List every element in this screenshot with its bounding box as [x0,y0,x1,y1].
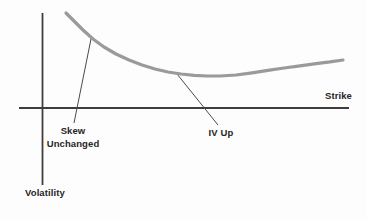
volatility-skew-figure: Skew Unchanged IV Up Strike Volatility [0,0,367,219]
annotation-iv-up: IV Up [209,127,234,140]
annotation-skew-unchanged-line-2: Unchanged [47,138,100,151]
leader-line-iv-up [177,74,218,125]
y-axis-label: Volatility [25,187,65,200]
implied-volatility-curve [66,13,343,76]
annotation-iv-up-line-1: IV Up [209,127,234,140]
leader-line-skew-unchanged [74,39,91,123]
annotation-skew-unchanged: Skew Unchanged [47,125,100,150]
annotation-skew-unchanged-line-1: Skew [47,125,100,138]
x-axis-label: Strike [325,90,352,103]
